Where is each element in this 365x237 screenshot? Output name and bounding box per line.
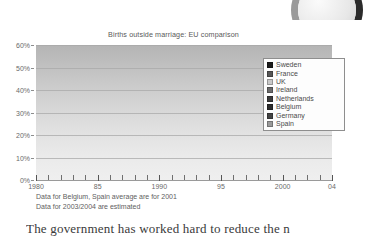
legend-label: France [276, 70, 298, 78]
x-axis-tick-label: 85 [94, 183, 102, 190]
x-axis-tick [184, 175, 185, 180]
gridline [36, 158, 332, 159]
x-axis-tick [61, 175, 62, 180]
x-axis-tick [320, 175, 321, 180]
legend-label: Ireland [276, 86, 297, 94]
y-axis-tick [31, 45, 34, 46]
x-axis-tick [332, 175, 333, 181]
y-axis-tick [31, 158, 34, 159]
x-axis-tick [295, 175, 296, 180]
x-axis-tick [98, 175, 99, 181]
x-axis-tick [246, 175, 247, 180]
x-axis-tick [209, 175, 210, 180]
legend-swatch-icon [267, 71, 273, 77]
x-axis-tick [233, 175, 234, 180]
y-axis-tick-label: 50% [16, 64, 30, 71]
legend-swatch-icon [267, 121, 273, 127]
legend-item-germany[interactable]: Germany [267, 111, 341, 119]
x-axis-tick [307, 175, 308, 180]
legend-item-belgium[interactable]: Belgium [267, 103, 341, 111]
legend-item-france[interactable]: France [267, 69, 341, 77]
y-axis-tick [31, 68, 34, 69]
footnote-1: Data for Belgium, Spain average are for … [36, 192, 336, 202]
x-axis-tick [258, 175, 259, 180]
chart-title: Births outside marriage: EU comparison [0, 30, 347, 39]
x-axis-tick [196, 175, 197, 180]
gridline [36, 45, 332, 46]
x-axis-tick [147, 175, 148, 180]
legend-label: Spain [276, 120, 294, 128]
x-axis-tick [36, 175, 37, 181]
x-axis-tick [48, 175, 49, 180]
y-axis-tick-label: 40% [16, 87, 30, 94]
legend-label: Belgium [276, 103, 301, 111]
chart-footnotes: Data for Belgium, Spain average are for … [36, 192, 336, 211]
legend-item-netherlands[interactable]: Netherlands [267, 95, 341, 103]
decorative-circle-graphic [291, 0, 365, 20]
x-axis-tick [270, 175, 271, 180]
legend-item-ireland[interactable]: Ireland [267, 86, 341, 94]
legend-swatch-icon [267, 62, 273, 68]
legend-swatch-icon [267, 113, 273, 119]
y-axis-tick-label: 20% [16, 132, 30, 139]
page-body-text: The government has worked hard to reduce… [26, 221, 346, 237]
y-axis-tick [31, 90, 34, 91]
y-axis: 60%50%40%30%20%10%0% [0, 45, 34, 180]
gridline [36, 135, 332, 136]
legend-item-uk[interactable]: UK [267, 78, 341, 86]
legend-swatch-icon [267, 79, 273, 85]
x-axis-tick-label: 1990 [152, 183, 168, 190]
y-axis-tick-label: 10% [16, 154, 30, 161]
x-axis-tick [85, 175, 86, 180]
legend-label: Netherlands [276, 95, 314, 103]
x-axis-tick [283, 175, 284, 181]
legend-label: Germany [276, 112, 305, 120]
footnote-2: Data for 2003/2004 are estimated [36, 202, 336, 212]
legend-swatch-icon [267, 87, 273, 93]
x-axis-tick [73, 175, 74, 180]
y-axis-tick-label: 30% [16, 109, 30, 116]
x-axis-tick [159, 175, 160, 181]
x-axis-tick-label: 2000 [275, 183, 291, 190]
y-axis-tick-label: 60% [16, 42, 30, 49]
x-axis-tick [122, 175, 123, 180]
x-axis-tick [135, 175, 136, 180]
x-axis-tick-label: 1980 [28, 183, 44, 190]
x-axis-tick [172, 175, 173, 180]
x-axis-tick [221, 175, 222, 181]
legend-label: Sweden [276, 61, 301, 69]
x-axis-tick-label: 04 [328, 183, 336, 190]
legend-label: UK [276, 78, 286, 86]
legend-swatch-icon [267, 96, 273, 102]
y-axis-tick [31, 180, 34, 181]
chart-legend: SwedenFranceUKIrelandNetherlandsBelgiumG… [263, 58, 345, 131]
y-axis-tick [31, 135, 34, 136]
circle-inner [298, 0, 356, 20]
legend-item-sweden[interactable]: Sweden [267, 61, 341, 69]
x-axis-tick-label: 95 [217, 183, 225, 190]
y-axis-tick [31, 113, 34, 114]
legend-item-spain[interactable]: Spain [267, 120, 341, 128]
x-axis-tick [110, 175, 111, 180]
legend-swatch-icon [267, 104, 273, 110]
x-axis-ticks [36, 175, 332, 181]
